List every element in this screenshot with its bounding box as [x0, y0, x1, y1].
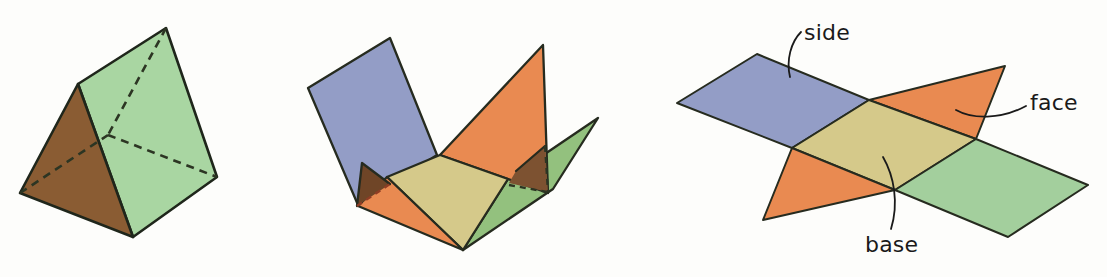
scene-drawing	[0, 0, 1107, 277]
partially-unfolded-net	[308, 38, 598, 250]
prism-net-illustration: side face base	[0, 0, 1107, 277]
solid-triangular-prism	[20, 28, 217, 237]
flat-net	[677, 32, 1088, 237]
label-side: side	[804, 21, 850, 45]
label-base: base	[865, 233, 918, 257]
label-face: face	[1030, 91, 1078, 115]
